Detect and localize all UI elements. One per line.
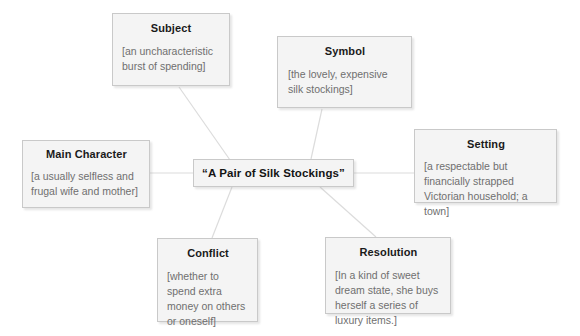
- concept-map-diagram: Subject [an uncharacteristic burst of sp…: [0, 0, 580, 336]
- node-conflict-title: Conflict: [167, 247, 249, 260]
- node-subject-body: [an uncharacteristic burst of spending]: [122, 44, 220, 74]
- node-setting[interactable]: Setting [a respectable but financially s…: [414, 129, 557, 203]
- node-center-topic-title: “A Pair of Silk Stockings”: [202, 167, 345, 180]
- connector-symbol-to-center: [311, 109, 322, 159]
- node-symbol[interactable]: Symbol [the lovely, expensive silk stock…: [277, 36, 412, 108]
- node-conflict-body: [whether to spend extra money on others …: [167, 269, 249, 329]
- node-resolution[interactable]: Resolution [In a kind of sweet dream sta…: [325, 237, 451, 314]
- connector-subject-to-center: [179, 87, 230, 160]
- node-resolution-body: [In a kind of sweet dream state, she buy…: [335, 268, 442, 328]
- node-setting-body: [a respectable but financially strapped …: [424, 159, 548, 219]
- node-main-character[interactable]: Main Character [a usually selfless and f…: [22, 140, 150, 208]
- node-subject-title: Subject: [122, 22, 220, 35]
- node-setting-title: Setting: [424, 138, 548, 151]
- node-subject[interactable]: Subject [an uncharacteristic burst of sp…: [112, 13, 230, 86]
- node-conflict[interactable]: Conflict [whether to spend extra money o…: [157, 238, 258, 322]
- node-main-character-body: [a usually selfless and frugal wife and …: [31, 169, 142, 199]
- connector-center-to-resolution: [320, 187, 376, 237]
- node-resolution-title: Resolution: [335, 246, 442, 259]
- node-main-character-title: Main Character: [31, 148, 142, 161]
- node-center-topic[interactable]: “A Pair of Silk Stockings”: [193, 159, 354, 187]
- connector-center-to-conflict: [212, 187, 232, 238]
- node-symbol-title: Symbol: [288, 45, 402, 58]
- node-symbol-body: [the lovely, expensive silk stockings]: [288, 67, 402, 97]
